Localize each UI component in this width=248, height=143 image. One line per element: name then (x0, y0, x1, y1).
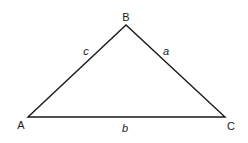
vertex-label-c: C (227, 120, 235, 132)
vertex-label-a: A (17, 119, 25, 131)
triangle-abc (28, 25, 225, 117)
side-label-c: c (83, 45, 89, 57)
side-label-b: b (122, 122, 128, 134)
vertex-label-b: B (122, 11, 129, 23)
side-label-a: a (163, 45, 169, 57)
triangle-diagram: B A C c a b (0, 0, 248, 143)
